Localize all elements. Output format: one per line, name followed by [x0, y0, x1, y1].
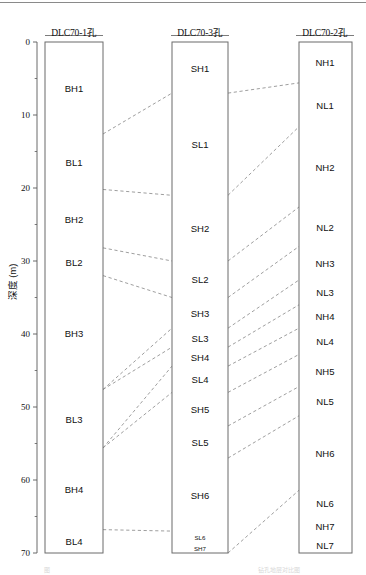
correlation-line-mid-right: [228, 305, 299, 347]
stratigraphic-unit-label: BH1: [65, 82, 83, 93]
correlation-line-mid-right: [228, 490, 299, 553]
stratigraphic-unit-label: NH1: [315, 57, 334, 68]
stratigraphic-unit-label: BL4: [66, 536, 83, 547]
stratigraphic-unit-label: NH3: [315, 258, 334, 269]
correlation-line-mid-right: [228, 280, 299, 328]
correlation-line-left-mid: [103, 189, 172, 195]
depth-tick-label: 0: [4, 37, 30, 47]
stratigraphic-unit-label: SH5: [191, 404, 209, 415]
stratigraphic-unit-label: SH4: [191, 351, 209, 362]
stratigraphic-unit-label: SL2: [192, 274, 209, 285]
depth-tick-label: 60: [4, 475, 30, 485]
borehole-box: [45, 42, 103, 553]
depth-tick-label: 70: [4, 548, 30, 558]
stratigraphic-unit-label: NH2: [315, 161, 334, 172]
correlation-line-left-mid: [103, 276, 172, 298]
borehole-box: [172, 42, 228, 553]
stratigraphic-unit-label: NH4: [315, 311, 334, 322]
stratigraphic-unit-label: BL1: [66, 156, 83, 167]
stratigraphic-unit-label: SL5: [192, 437, 209, 448]
depth-axis-title: 深度 (m): [5, 264, 19, 301]
stratigraphic-unit-label: SL4: [192, 374, 209, 385]
borehole-correlation-figure: 010203040506070深度 (m)DLC70-1孔BH1BL1BH2BL…: [0, 0, 366, 575]
correlation-line-left-mid: [103, 366, 172, 448]
correlation-line-mid-right: [228, 387, 299, 426]
correlation-line-mid-right: [228, 127, 299, 196]
correlation-line-mid-right: [228, 207, 299, 261]
stratigraphic-unit-label: SH7: [194, 544, 206, 551]
depth-tick-label: 50: [4, 402, 30, 412]
stratigraphic-unit-label: SL3: [192, 332, 209, 343]
stratigraphic-unit-label: NL4: [316, 336, 333, 347]
stratigraphic-unit-label: BH4: [65, 483, 83, 494]
stratigraphic-unit-label: BL3: [66, 413, 83, 424]
caption-fragment-left: 图: [44, 565, 50, 574]
correlation-line-left-mid: [103, 93, 172, 134]
depth-tick-label: 40: [4, 329, 30, 339]
borehole-header-dlc70-3: DLC70-3孔: [155, 25, 245, 39]
stratigraphic-unit-label: SH6: [191, 489, 209, 500]
correlation-line-mid-right: [228, 416, 299, 458]
correlation-line-mid-right: [228, 246, 299, 297]
stratigraphic-unit-label: NL6: [316, 497, 333, 508]
stratigraphic-unit-label: SL1: [192, 139, 209, 150]
stratigraphic-unit-label: BH2: [65, 213, 83, 224]
correlation-line-mid-right: [228, 328, 299, 366]
stratigraphic-unit-label: NL1: [316, 99, 333, 110]
stratigraphic-unit-label: NH6: [315, 447, 334, 458]
correlation-line-left-mid: [103, 530, 172, 531]
correlation-line-left-mid: [103, 248, 172, 261]
stratigraphic-unit-label: NL3: [316, 287, 333, 298]
stratigraphic-unit-label: SH2: [191, 223, 209, 234]
stratigraphic-unit-label: SH3: [191, 307, 209, 318]
correlation-canvas: [0, 0, 366, 575]
borehole-header-dlc70-1: DLC70-1孔: [29, 25, 119, 39]
stratigraphic-unit-label: NH5: [315, 365, 334, 376]
stratigraphic-unit-label: SL6: [194, 533, 205, 540]
stratigraphic-unit-label: NL7: [316, 539, 333, 550]
borehole-column-dlc70-3[interactable]: [172, 42, 228, 553]
borehole-column-dlc70-1[interactable]: [45, 42, 103, 553]
stratigraphic-unit-label: NH7: [315, 520, 334, 531]
stratigraphic-unit-label: BH3: [65, 327, 83, 338]
stratigraphic-unit-label: NL2: [316, 221, 333, 232]
depth-axis: [33, 42, 37, 553]
correlation-line-left-mid: [103, 347, 172, 389]
correlation-line-mid-right: [228, 83, 299, 93]
correlation-line-left-mid: [103, 392, 172, 447]
depth-tick-label: 20: [4, 183, 30, 193]
stratigraphic-unit-label: NL5: [316, 396, 333, 407]
stratigraphic-unit-label: BL2: [66, 256, 83, 267]
correlation-line-left-mid: [103, 328, 172, 389]
stratigraphic-unit-label: SH1: [191, 62, 209, 73]
depth-tick-label: 10: [4, 110, 30, 120]
caption-fragment-right: 钻孔地层对比图: [258, 565, 300, 574]
borehole-header-dlc70-2: DLC70-2孔: [280, 25, 366, 39]
